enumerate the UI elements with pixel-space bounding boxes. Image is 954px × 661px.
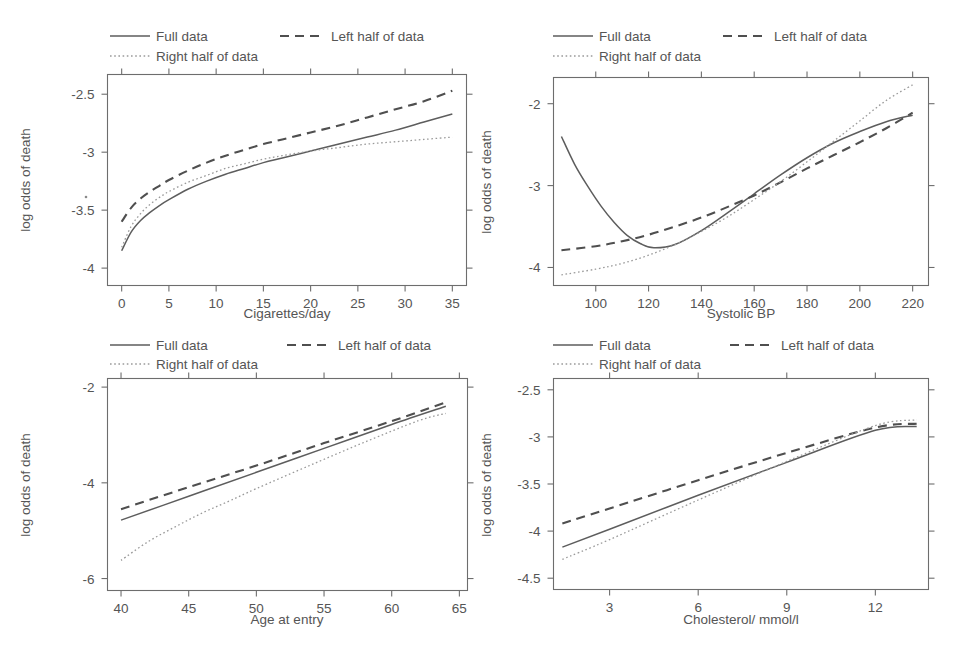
plot-frame (554, 78, 929, 286)
y-tick-label: -6 (82, 572, 94, 587)
plot-area-systolic-bp: 100120140160180200220-2-3-4 (528, 72, 934, 311)
x-axis-title: Age at entry (251, 612, 324, 627)
x-tick-label: 35 (445, 296, 460, 311)
x-tick-label: 220 (901, 296, 924, 311)
series-line-dashed (562, 424, 916, 524)
y-tick-label: -3 (528, 179, 540, 194)
x-tick-label: 10 (209, 296, 224, 311)
x-tick-label: 65 (452, 601, 467, 616)
y-axis-title: log odds of death (479, 433, 494, 537)
plot-frame (108, 379, 468, 591)
x-tick-label: 180 (796, 296, 819, 311)
legend-label-right: Right half of data (156, 357, 259, 372)
plot-frame (554, 379, 929, 590)
y-tick-label: -3.5 (517, 477, 540, 492)
y-tick-label: -4 (82, 476, 94, 491)
series-group (562, 420, 916, 559)
series-line-dashed (561, 113, 912, 251)
legend-cigarettes: Full data Left half of data Right half o… (110, 29, 425, 64)
panel-systolic-bp: Full data Left half of data Right half o… (477, 0, 954, 330)
series-line-dotted (121, 413, 446, 560)
x-tick-label: 40 (114, 601, 129, 616)
legend-label-full: Full data (156, 29, 208, 44)
legend-label-full: Full data (156, 338, 208, 353)
series-line-dotted (122, 137, 453, 247)
x-tick-label: 30 (398, 296, 413, 311)
x-axis-title: Systolic BP (707, 306, 775, 321)
legend-label-left: Left half of data (781, 338, 875, 353)
x-tick-label: 60 (384, 601, 399, 616)
y-tick-label: -2 (528, 97, 540, 112)
y-tick-label: -4 (528, 524, 540, 539)
series-line-dotted (562, 420, 916, 559)
x-tick-label: 200 (849, 296, 872, 311)
x-tick-label: 100 (584, 296, 607, 311)
panel-cigarettes: Full data Left half of data Right half o… (0, 0, 477, 330)
plot-area-cholesterol: 36912-2.5-3-3.5-4-4.5 (517, 373, 934, 615)
plot-area-age-at-entry: 404550556065-2-4-6 (82, 373, 473, 616)
series-line-solid (562, 426, 916, 547)
series-line-solid (121, 406, 446, 520)
series-line-solid (122, 114, 453, 251)
legend-systolic-bp: Full data Left half of data Right half o… (553, 29, 868, 64)
legend-age-at-entry: Full data Left half of data Right half o… (110, 338, 432, 372)
legend-cholesterol: Full data Left half of data Right half o… (553, 338, 875, 372)
series-line-solid (561, 115, 912, 248)
axis-group: 100120140160180200220-2-3-4 (528, 72, 934, 311)
y-tick-label: -2.5 (517, 383, 540, 398)
x-tick-label: 45 (181, 601, 196, 616)
x-axis-title: Cholesterol/ mmol/l (683, 612, 799, 627)
legend-label-full: Full data (599, 338, 651, 353)
legend-label-left: Left half of data (774, 29, 868, 44)
plot-frame (108, 75, 467, 286)
x-tick-label: 25 (350, 296, 365, 311)
panel-cholesterol: Full data Left half of data Right half o… (477, 330, 954, 661)
y-tick-label: -4 (82, 261, 94, 276)
y-axis-title: log odds of death (479, 130, 494, 234)
panel-cholesterol-svg: Full data Left half of data Right half o… (477, 330, 954, 661)
legend-label-left: Left half of data (338, 338, 432, 353)
panel-cigarettes-svg: Full data Left half of data Right half o… (0, 0, 477, 330)
legend-label-full: Full data (599, 29, 651, 44)
legend-label-right: Right half of data (599, 357, 702, 372)
series-group (121, 402, 446, 560)
x-tick-label: 12 (868, 600, 883, 615)
series-line-dashed (121, 402, 446, 509)
panel-systolic-bp-svg: Full data Left half of data Right half o… (477, 0, 954, 330)
x-axis-title: Cigarettes/day (243, 306, 330, 321)
panel-age-at-entry: Full data Left half of data Right half o… (0, 330, 477, 661)
legend-label-right: Right half of data (599, 49, 702, 64)
series-line-dotted (561, 85, 912, 275)
y-tick-label: -2.5 (71, 87, 94, 102)
x-tick-label: 5 (165, 296, 173, 311)
four-panel-figure: Full data Left half of data Right half o… (0, 0, 954, 661)
series-group (561, 85, 912, 275)
series-group (122, 91, 453, 251)
panel-age-at-entry-svg: Full data Left half of data Right half o… (0, 330, 477, 661)
y-axis-title: log odds of death (18, 128, 33, 232)
y-tick-label: -4.5 (517, 571, 540, 586)
y-tick-label: -2 (82, 380, 94, 395)
y-axis-title: log odds of death (18, 433, 33, 537)
y-tick-label: -3.5 (71, 203, 94, 218)
x-tick-label: 3 (606, 600, 614, 615)
legend-label-right: Right half of data (156, 49, 259, 64)
x-tick-label: 120 (637, 296, 660, 311)
legend-label-left: Left half of data (331, 29, 425, 44)
scan-artifact-speck (85, 196, 88, 199)
y-tick-label: -3 (82, 145, 94, 160)
y-tick-label: -3 (528, 430, 540, 445)
plot-area-cigarettes: 05101520253035-2.5-3-3.5-4 (71, 69, 472, 311)
x-tick-label: 0 (118, 296, 126, 311)
axis-group: 36912-2.5-3-3.5-4-4.5 (517, 373, 934, 615)
axis-group: 404550556065-2-4-6 (82, 373, 473, 616)
y-tick-label: -4 (528, 260, 540, 275)
